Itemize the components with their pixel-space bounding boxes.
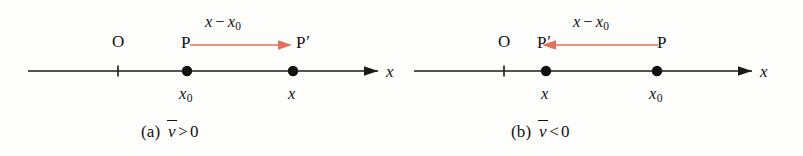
axis-variable-text: x xyxy=(386,62,394,81)
caption-tag: (a) xyxy=(141,122,160,141)
displacement-trail: x xyxy=(596,12,603,31)
displacement-lead: x xyxy=(205,12,212,31)
coordinate-x0-subscript: 0 xyxy=(657,92,663,104)
point-label-P-prime: P′ xyxy=(296,33,310,51)
displacement-label: x−x0 xyxy=(573,14,609,33)
panel-a-graphics xyxy=(0,0,402,156)
origin-label: O xyxy=(498,33,510,50)
panel-b: O P′ P x−x0 x x x0 (b)v<0 xyxy=(401,0,803,156)
panel-a-caption: (a)v>0 xyxy=(141,123,199,140)
point-label-P-prime-text: P xyxy=(537,33,547,52)
caption-value: 0 xyxy=(190,122,199,141)
point-marker-P-prime xyxy=(288,66,298,76)
point-label-P: P xyxy=(181,33,191,51)
displacement-trail-subscript: 0 xyxy=(235,20,241,32)
caption-relation: < xyxy=(549,122,559,141)
caption-tag: (b) xyxy=(511,122,531,141)
displacement-figure: O P P′ x−x0 x x0 x (a)v>0 xyxy=(0,0,803,156)
displacement-trail: x xyxy=(228,12,235,31)
coordinate-x0-subscript: 0 xyxy=(187,92,193,104)
coordinate-label-x0: x0 xyxy=(649,86,662,105)
point-marker-P xyxy=(652,66,662,76)
coordinate-label-x: x xyxy=(288,86,296,105)
caption-mean-velocity-symbol: v xyxy=(167,123,176,140)
axis-arrowhead xyxy=(738,66,752,76)
coordinate-label-x: x xyxy=(541,86,549,105)
point-label-P-text: P xyxy=(181,33,191,52)
displacement-label: x−x0 xyxy=(205,14,241,33)
panel-a: O P P′ x−x0 x x0 x (a)v>0 xyxy=(0,0,402,156)
caption-value: 0 xyxy=(561,122,570,141)
point-marker-P-prime xyxy=(541,66,551,76)
point-marker-P xyxy=(182,66,192,76)
axis-variable-label: x xyxy=(386,63,394,80)
point-label-P-prime-mark: ′ xyxy=(547,32,551,51)
point-label-P: P xyxy=(657,33,667,51)
displacement-arrowhead xyxy=(278,40,292,49)
point-label-P-text: P xyxy=(657,33,667,52)
origin-label-text: O xyxy=(112,32,124,51)
axis-variable-label: x xyxy=(760,63,768,80)
displacement-trail-subscript: 0 xyxy=(603,20,609,32)
caption-mean-velocity-symbol: v xyxy=(538,123,547,140)
axis-arrowhead xyxy=(364,66,378,76)
panel-b-caption: (b)v<0 xyxy=(511,123,570,140)
origin-label-text: O xyxy=(498,32,510,51)
displacement-operator: − xyxy=(215,12,224,31)
origin-label: O xyxy=(112,33,124,50)
coordinate-label-x0: x0 xyxy=(179,86,192,105)
coordinate-x-text: x xyxy=(288,84,295,103)
caption-relation: > xyxy=(178,122,188,141)
coordinate-x-text: x xyxy=(541,84,548,103)
axis-variable-text: x xyxy=(760,62,768,81)
point-label-P-prime-mark2: ′ xyxy=(306,32,310,51)
point-label-P-prime-text: P xyxy=(296,33,306,52)
displacement-lead: x xyxy=(573,12,580,31)
coordinate-x0-text: x xyxy=(179,84,186,103)
coordinate-x0-text: x xyxy=(649,84,656,103)
point-label-P-prime: P′ xyxy=(537,33,551,51)
displacement-operator: − xyxy=(583,12,592,31)
